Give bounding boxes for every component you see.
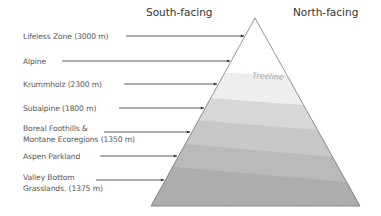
zone-label-lifeless: Lifeless Zone (3000 m) (23, 31, 108, 42)
zone-label-subalpine: Subalpine (1800 m) (23, 103, 96, 114)
north-facing-header: North-facing (293, 6, 358, 18)
zone-label-krummholz: Krummholz (2300 m) (23, 79, 102, 90)
zone-label-valley-line2: Grasslands. (1375 m) (23, 183, 103, 194)
treeline-label: Treeline (252, 71, 284, 82)
zone-label-aspen: Aspen Parkland (23, 151, 80, 162)
zone-label-valley-line1: Valley Bottom (23, 172, 75, 183)
south-facing-header: South-facing (146, 6, 212, 18)
zone-label-boreal-line2: Montane Ecoregions (1350 m) (23, 134, 135, 145)
mountain-bands (140, 10, 370, 216)
zone-label-boreal-line1: Boreal Foothills & (23, 123, 88, 134)
elevation-zone-diagram: Treeline South-facing North-facing Lifel… (0, 0, 381, 216)
zone-label-alpine: Alpine (23, 56, 46, 67)
